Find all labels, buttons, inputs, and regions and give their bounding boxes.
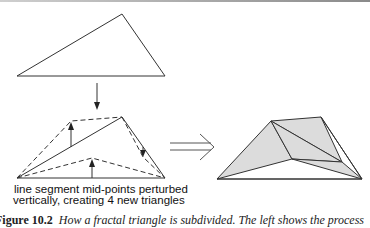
perturb-arrow-left-icon	[68, 122, 74, 147]
perturb-arrow-bottom-icon	[89, 159, 95, 178]
subdivided-triangle	[217, 117, 362, 179]
caption-text: How a fractal triangle is subdivided. Th…	[59, 213, 364, 227]
down-arrow-icon	[94, 83, 100, 110]
annotation-line-2: vertically, creating 4 new triangles	[13, 195, 185, 206]
implies-arrow-icon	[170, 134, 214, 160]
original-triangle	[17, 14, 165, 76]
caption-figure-number: Figure 10.2	[0, 213, 53, 227]
figure-caption: Figure 10.2How a fractal triangle is sub…	[0, 213, 364, 228]
perturb-arrow-right-icon	[140, 147, 146, 157]
